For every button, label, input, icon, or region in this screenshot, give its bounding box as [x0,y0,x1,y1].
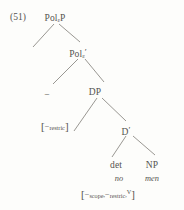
tree-node-polbar: Polε′ [69,48,87,59]
feature-bracket-dp-trace-features: [−restric] [41,121,69,132]
tree-node-det: det [110,161,122,171]
node-label: det [110,160,122,170]
tree-branch [74,98,97,131]
tree-branch [33,24,54,47]
tree-branch [112,136,126,157]
tree-node-dp: DP [89,88,101,98]
node-prime: ′ [128,125,130,135]
node-label: − [44,90,49,100]
feature-name: restric [49,124,64,131]
bracket-close: ] [65,120,69,132]
tree-node-polp: PolεP [45,14,66,24]
feature-bracket-det-features: [−scope,−restric,V] [81,189,135,200]
tree-node-dbar: D′ [121,126,130,137]
node-label: Pol [45,13,58,23]
tree-branch [53,59,78,84]
bracket-close: ] [131,188,135,200]
figure-canvas: (51) PolεPPolε′−DPD′detNP nomen [−restri… [0,0,184,210]
node-prime: ′ [85,47,87,57]
tree-leaf-det-word: no [115,174,123,183]
node-label: D [121,127,128,137]
tree-branch [133,136,155,155]
node-label: DP [89,87,101,97]
example-number: (51) [10,12,26,22]
tree-node-np: NP [146,161,158,171]
node-label: Pol [69,49,82,59]
feature-name: restric [110,192,125,199]
tree-branch [102,98,126,121]
feature-name: scope [89,192,103,199]
tree-node-minus: − [44,90,49,100]
tree-branch [85,59,104,82]
tree-branch [59,24,80,42]
tree-leaf-np-word: men [145,174,159,183]
node-suffix: P [60,13,65,23]
node-label: NP [146,160,158,170]
